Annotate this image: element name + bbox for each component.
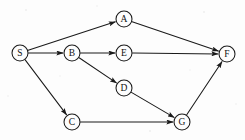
- graph-edge-a-to-f: [132, 22, 218, 51]
- graph-node-d: D: [116, 80, 132, 96]
- scan-speck: [59, 75, 60, 76]
- node-label-f: F: [224, 49, 229, 59]
- graph-node-a: A: [116, 11, 132, 27]
- node-label-e: E: [121, 48, 127, 58]
- scan-speck: [7, 95, 9, 97]
- node-label-d: D: [121, 83, 128, 93]
- edge-layer: [25, 22, 222, 122]
- graph-node-f: F: [219, 46, 235, 62]
- scan-speck: [235, 103, 237, 105]
- scan-speck: [25, 9, 27, 11]
- node-label-a: A: [121, 14, 128, 24]
- node-label-b: B: [69, 48, 75, 58]
- node-label-s: S: [17, 48, 22, 58]
- graph-diagram: SABEDCGF: [0, 0, 245, 140]
- graph-node-b: B: [64, 45, 80, 61]
- graph-node-s: S: [12, 45, 28, 61]
- scan-speck: [203, 11, 205, 13]
- graph-canvas: SABEDCGF: [0, 0, 245, 140]
- node-layer: SABEDCGF: [12, 11, 235, 130]
- graph-edge-b-to-d: [79, 58, 116, 83]
- node-label-c: C: [69, 117, 75, 127]
- graph-edge-e-to-f: [133, 53, 218, 54]
- scan-speck: [189, 69, 190, 70]
- node-label-g: G: [179, 117, 186, 127]
- graph-node-c: C: [64, 114, 80, 130]
- graph-node-e: E: [116, 45, 132, 61]
- scan-speck: [149, 130, 151, 132]
- graph-node-g: G: [174, 114, 190, 130]
- graph-edge-g-to-f: [187, 62, 222, 115]
- graph-edge-s-to-c: [25, 60, 66, 115]
- graph-edge-d-to-g: [131, 92, 174, 117]
- scan-speck: [96, 5, 98, 7]
